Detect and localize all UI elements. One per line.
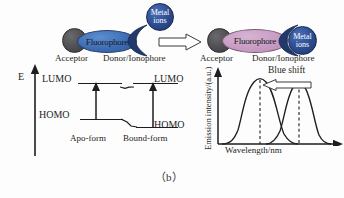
figure-panel-b: Fluorophore Metal ions Acceptor Donor/Io… [0, 0, 344, 198]
homo-left-label: HOMO [39, 110, 70, 120]
bound-form-label: Bound-form [123, 134, 168, 143]
homo-right-label: HOMO [154, 120, 185, 130]
metal-ion-free-label-line2: ions [153, 17, 166, 25]
excitation-arrow-apo [91, 82, 101, 120]
fluorophore-ellipse-bound-label: Fluorophore [234, 36, 276, 46]
lumo-left-label: LUMO [42, 74, 71, 84]
metal-ion-bound-label-line2: ions [296, 41, 309, 49]
apo-form-label: Apo-form [70, 134, 106, 143]
energy-level-diagram: E LUMO LUMO HOMO HOMO [8, 62, 193, 160]
figure-caption: （b） [155, 172, 183, 183]
metal-ion-sphere-bound: Metal ions [288, 26, 317, 55]
blue-shift-arrow [262, 77, 312, 89]
lumo-right-label: LUMO [154, 74, 183, 84]
homo-connector [121, 117, 137, 133]
binding-transition-arrow [158, 33, 202, 51]
x-axis-title: Wavelength/nm [225, 146, 282, 155]
lumo-connector [120, 78, 134, 88]
bound-probe-schematic: Fluorophore Metal ions Acceptor Donor/Io… [200, 2, 340, 60]
fluorophore-ellipse-free-label: Fluorophore [86, 37, 128, 47]
energy-axis-label: E [18, 72, 24, 82]
emission-spectrum-chart: Emission intensity/(a.u.) Blue [196, 62, 344, 160]
free-probe-schematic: Fluorophore Metal ions Acceptor Donor/Io… [55, 2, 185, 60]
homo-left-level [80, 119, 123, 120]
blue-shift-label: Blue shift [268, 66, 305, 76]
excitation-arrow-bound [148, 82, 158, 128]
metal-ion-sphere-free: Metal ions [146, 3, 174, 31]
